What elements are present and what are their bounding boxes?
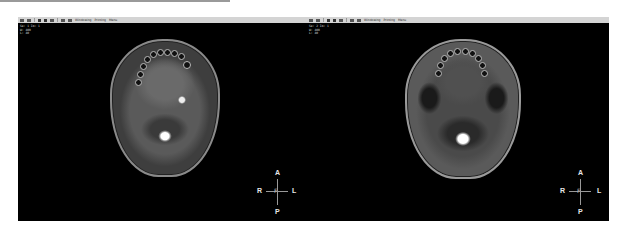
tooth bbox=[454, 48, 461, 55]
viewport-toolbar-right: Windowing Printing Menu bbox=[307, 17, 609, 23]
orientation-marker: A P R L F bbox=[555, 167, 605, 217]
tooth bbox=[437, 62, 444, 69]
orientation-posterior: P bbox=[578, 208, 583, 215]
overlay-line: L: 40 bbox=[20, 32, 40, 36]
tooth bbox=[135, 79, 142, 86]
printing-button[interactable]: Printing bbox=[94, 17, 106, 23]
orientation-anterior: A bbox=[275, 169, 280, 176]
overlay-top-left: Se: 2 Im: 1 W: 400 L: 40 bbox=[309, 25, 329, 36]
annotate-icon[interactable] bbox=[68, 19, 72, 22]
zoom-icon[interactable] bbox=[44, 19, 47, 22]
toolbar-divider bbox=[34, 18, 35, 22]
contrast-icon[interactable] bbox=[50, 19, 54, 22]
mri-image-t2[interactable] bbox=[405, 39, 521, 179]
mri-image-t1[interactable] bbox=[110, 39, 220, 177]
overlay-top-left: Se: 1 Im: 1 W: 400 L: 40 bbox=[20, 25, 40, 36]
viewport-right[interactable]: Windowing Printing Menu Se: 2 Im: 1 W: 4… bbox=[307, 17, 609, 221]
tooth bbox=[137, 71, 144, 78]
tooth bbox=[435, 70, 442, 77]
tooth bbox=[178, 53, 185, 60]
orientation-right: R bbox=[560, 187, 565, 194]
tooth bbox=[447, 50, 454, 57]
menu-button[interactable]: Menu bbox=[398, 17, 406, 23]
tooth bbox=[157, 49, 164, 56]
zoom-icon[interactable] bbox=[333, 19, 336, 22]
tooth bbox=[150, 51, 157, 58]
orientation-anterior: A bbox=[578, 169, 583, 176]
orientation-feet: F bbox=[577, 187, 580, 194]
menu-button[interactable]: Menu bbox=[109, 17, 117, 23]
tooth bbox=[140, 63, 147, 70]
orientation-left: L bbox=[597, 187, 601, 194]
tooth bbox=[462, 48, 469, 55]
viewport-left[interactable]: Windowing Printing Menu Se: 1 Im: 1 W: 4… bbox=[18, 17, 307, 221]
window-top-strip bbox=[0, 0, 230, 2]
viewport-toolbar-left: Windowing Printing Menu bbox=[18, 17, 307, 23]
ruler-icon[interactable] bbox=[350, 19, 354, 22]
windowing-button[interactable]: Windowing bbox=[364, 17, 380, 23]
tooth bbox=[475, 55, 482, 62]
annotate-icon[interactable] bbox=[357, 19, 361, 22]
tooth bbox=[164, 49, 171, 56]
tooth bbox=[171, 50, 178, 57]
windowing-button[interactable]: Windowing bbox=[75, 17, 91, 23]
grid-icon[interactable] bbox=[27, 19, 31, 22]
tooth bbox=[481, 70, 488, 77]
pan-icon[interactable] bbox=[38, 19, 41, 22]
printing-button[interactable]: Printing bbox=[383, 17, 395, 23]
tooth bbox=[144, 56, 151, 63]
toolbar-divider bbox=[57, 18, 58, 22]
layout-icon[interactable] bbox=[309, 19, 313, 22]
orientation-right: R bbox=[257, 187, 262, 194]
tooth bbox=[441, 55, 448, 62]
ruler-icon[interactable] bbox=[61, 19, 65, 22]
pan-icon[interactable] bbox=[327, 19, 330, 22]
tooth bbox=[479, 62, 486, 69]
contrast-icon[interactable] bbox=[339, 19, 343, 22]
toolbar-divider bbox=[323, 18, 324, 22]
tooth bbox=[183, 61, 191, 69]
overlay-line: L: 40 bbox=[309, 32, 329, 36]
orientation-marker: A P R L F bbox=[252, 167, 302, 217]
layout-icon[interactable] bbox=[20, 19, 24, 22]
orientation-posterior: P bbox=[275, 208, 280, 215]
orientation-left: L bbox=[292, 187, 296, 194]
grid-icon[interactable] bbox=[316, 19, 320, 22]
orientation-feet: F bbox=[274, 187, 277, 194]
toolbar-divider bbox=[346, 18, 347, 22]
